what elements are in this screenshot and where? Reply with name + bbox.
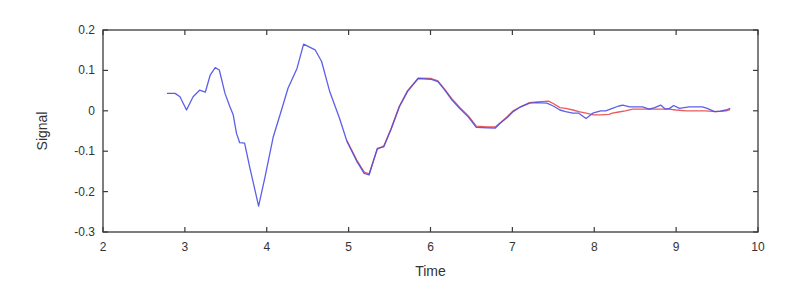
x-tick-label: 7	[509, 240, 516, 254]
x-tick-label: 5	[345, 240, 352, 254]
x-tick-label: 6	[427, 240, 434, 254]
x-tick-label: 10	[751, 240, 765, 254]
x-tick-label: 9	[673, 240, 680, 254]
x-tick-label: 8	[591, 240, 598, 254]
y-tick-label: 0.1	[78, 63, 95, 77]
y-tick-label: -0.3	[74, 225, 95, 239]
y-tick-label: 0.2	[78, 23, 95, 37]
x-tick-label: 3	[182, 240, 189, 254]
y-tick-label: -0.1	[74, 144, 95, 158]
line-chart: 2345678910 0.20.10-0.1-0.2-0.3 Time Sign…	[0, 0, 791, 287]
y-tick-label: -0.2	[74, 185, 95, 199]
x-tick-label: 2	[100, 240, 107, 254]
x-tick-label: 4	[263, 240, 270, 254]
x-axis-label: Time	[415, 263, 446, 279]
y-tick-label: 0	[88, 104, 95, 118]
y-axis-label: Signal	[34, 112, 50, 151]
